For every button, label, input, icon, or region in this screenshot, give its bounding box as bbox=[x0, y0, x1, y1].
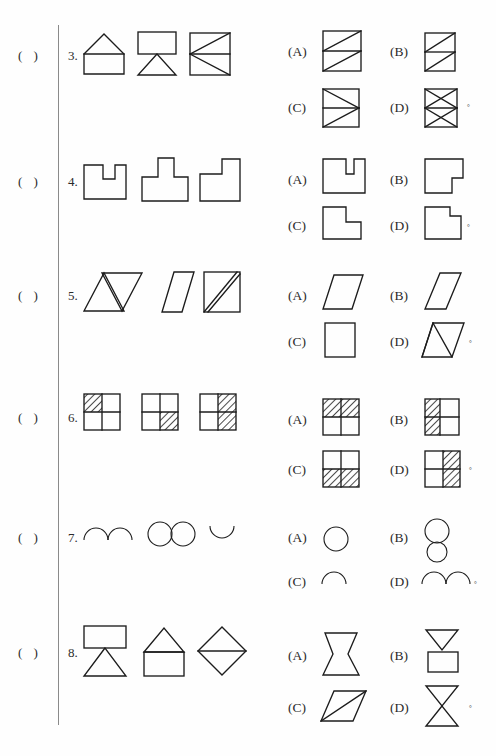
stem-shape-8-2 bbox=[144, 628, 184, 676]
degree-mark-6: ° bbox=[469, 466, 472, 474]
option-label-7-D[interactable]: (D) bbox=[390, 574, 409, 590]
stem-shape-4-2 bbox=[142, 158, 188, 201]
question-number-4: 4. bbox=[68, 174, 78, 190]
option-shape-3-D[interactable] bbox=[424, 88, 458, 128]
stem-shape-5-1 bbox=[84, 273, 142, 311]
stem-shape-4-1 bbox=[84, 165, 126, 199]
worksheet-page: ( ) 3. bbox=[0, 0, 496, 756]
option-label-7-C[interactable]: (C) bbox=[288, 574, 306, 590]
option-shape-4-C[interactable] bbox=[322, 206, 362, 240]
answer-bracket-8[interactable]: ( ) bbox=[18, 645, 42, 661]
stem-shape-6-1 bbox=[84, 394, 120, 430]
stem-shape-5-2 bbox=[162, 272, 194, 312]
option-shape-8-A[interactable] bbox=[322, 632, 362, 676]
option-shape-8-B[interactable] bbox=[424, 628, 464, 676]
question-number-6: 6. bbox=[68, 410, 78, 426]
option-label-5-D[interactable]: (D) bbox=[390, 334, 409, 350]
option-shape-4-D[interactable] bbox=[424, 206, 462, 240]
option-label-6-A[interactable]: (A) bbox=[288, 412, 307, 428]
stem-shape-4-3 bbox=[200, 159, 240, 201]
answer-bracket-3[interactable]: ( ) bbox=[18, 48, 42, 64]
option-shape-6-C[interactable] bbox=[322, 450, 362, 490]
option-shape-3-A[interactable] bbox=[322, 30, 362, 72]
option-label-6-C[interactable]: (C) bbox=[288, 462, 306, 478]
option-shape-6-B[interactable] bbox=[424, 398, 464, 438]
option-shape-7-C[interactable] bbox=[320, 566, 352, 588]
stem-shape-3-1 bbox=[84, 34, 124, 74]
option-shape-8-D[interactable] bbox=[424, 684, 462, 728]
vertical-divider-rule bbox=[58, 25, 59, 725]
option-shape-8-C[interactable] bbox=[320, 690, 368, 724]
stem-shape-7-3 bbox=[210, 526, 234, 538]
stem-shape-7-2 bbox=[148, 522, 195, 546]
option-label-6-D[interactable]: (D) bbox=[390, 462, 409, 478]
option-label-7-A[interactable]: (A) bbox=[288, 530, 307, 546]
stem-shape-6-3 bbox=[200, 394, 236, 430]
question-stem-6 bbox=[82, 392, 242, 434]
stem-shape-6-2 bbox=[142, 394, 178, 430]
degree-mark-8: ° bbox=[469, 704, 472, 712]
degree-mark-3: ° bbox=[467, 103, 470, 111]
stem-shape-3-2 bbox=[138, 32, 176, 75]
option-shape-5-C[interactable] bbox=[324, 322, 356, 358]
question-stem-3 bbox=[82, 28, 232, 80]
option-label-3-C[interactable]: (C) bbox=[288, 100, 306, 116]
option-shape-5-D[interactable] bbox=[421, 322, 465, 358]
option-label-3-B[interactable]: (B) bbox=[390, 44, 408, 60]
option-label-6-B[interactable]: (B) bbox=[390, 412, 408, 428]
option-label-3-A[interactable]: (A) bbox=[288, 44, 307, 60]
degree-mark-7: ° bbox=[474, 580, 477, 588]
option-label-8-C[interactable]: (C) bbox=[288, 700, 306, 716]
option-label-4-C[interactable]: (C) bbox=[288, 218, 306, 234]
option-label-4-B[interactable]: (B) bbox=[390, 172, 408, 188]
option-label-7-B[interactable]: (B) bbox=[390, 530, 408, 546]
option-label-5-C[interactable]: (C) bbox=[288, 334, 306, 350]
answer-bracket-7[interactable]: ( ) bbox=[18, 530, 42, 546]
option-shape-7-D[interactable] bbox=[420, 564, 472, 588]
question-stem-4 bbox=[82, 153, 242, 207]
question-number-7: 7. bbox=[68, 530, 78, 546]
option-shape-6-D[interactable] bbox=[424, 450, 464, 490]
answer-bracket-5[interactable]: ( ) bbox=[18, 288, 42, 304]
question-number-8: 8. bbox=[68, 645, 78, 661]
option-shape-6-A[interactable] bbox=[322, 398, 362, 438]
degree-mark-4: ° bbox=[467, 223, 470, 231]
option-shape-5-B[interactable] bbox=[424, 272, 462, 310]
option-label-5-A[interactable]: (A) bbox=[288, 288, 307, 304]
answer-bracket-4[interactable]: ( ) bbox=[18, 174, 42, 190]
option-shape-4-A[interactable] bbox=[322, 158, 366, 194]
option-label-5-B[interactable]: (B) bbox=[390, 288, 408, 304]
option-label-4-D[interactable]: (D) bbox=[390, 218, 409, 234]
question-stem-8 bbox=[82, 622, 252, 680]
option-shape-7-A[interactable] bbox=[322, 524, 352, 554]
stem-shape-3-3 bbox=[190, 33, 230, 75]
option-label-4-A[interactable]: (A) bbox=[288, 172, 307, 188]
question-stem-7 bbox=[82, 516, 242, 550]
stem-shape-8-1 bbox=[84, 626, 126, 676]
option-shape-7-B[interactable] bbox=[421, 518, 453, 564]
option-label-8-B[interactable]: (B) bbox=[390, 648, 408, 664]
stem-shape-5-3 bbox=[204, 272, 240, 312]
option-shape-3-C[interactable] bbox=[322, 88, 360, 128]
option-label-8-A[interactable]: (A) bbox=[288, 648, 307, 664]
question-number-3: 3. bbox=[68, 48, 78, 64]
stem-shape-8-3 bbox=[198, 627, 246, 675]
option-label-8-D[interactable]: (D) bbox=[390, 700, 409, 716]
stem-shape-7-1 bbox=[84, 528, 132, 540]
option-label-3-D[interactable]: (D) bbox=[390, 100, 409, 116]
option-shape-5-A[interactable] bbox=[322, 274, 364, 310]
degree-mark-5: ° bbox=[469, 339, 472, 347]
option-shape-3-B[interactable] bbox=[424, 32, 456, 72]
question-number-5: 5. bbox=[68, 288, 78, 304]
question-stem-5 bbox=[82, 267, 242, 315]
answer-bracket-6[interactable]: ( ) bbox=[18, 410, 42, 426]
option-shape-4-B[interactable] bbox=[424, 158, 464, 194]
